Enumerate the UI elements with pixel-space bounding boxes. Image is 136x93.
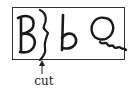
letter-q	[92, 18, 126, 50]
cut-label: cut	[32, 74, 56, 88]
diagram-canvas	[0, 0, 136, 93]
letter-b-lowercase	[62, 15, 76, 50]
cut-line	[40, 10, 48, 60]
cut-diagram: cut	[0, 0, 136, 93]
arrow-up-icon	[39, 60, 45, 74]
letter-b-uppercase	[18, 16, 35, 52]
